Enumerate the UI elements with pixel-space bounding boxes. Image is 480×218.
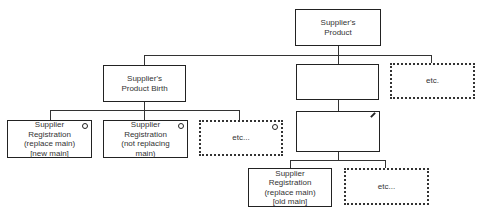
node-blank-middle[interactable] (296, 64, 379, 100)
node-label: Supplier Registration (replace main) [ne… (24, 120, 75, 158)
diagram-canvas: Supplier's Product Supplier's Product Bi… (0, 0, 480, 218)
node-label: etc. (426, 76, 439, 86)
node-supplier-registration-old-main[interactable]: Supplier Registration (replace main) [ol… (248, 168, 332, 207)
circle-icon (82, 123, 88, 129)
node-label: etc... (378, 182, 395, 192)
connector (144, 55, 432, 56)
circle-icon (178, 123, 184, 129)
connector (50, 110, 240, 111)
node-etc-left[interactable]: etc... (199, 120, 283, 156)
connector (50, 110, 51, 120)
node-suppliers-product[interactable]: Supplier's Product (295, 9, 381, 46)
node-suppliers-product-birth[interactable]: Supplier's Product Birth (103, 65, 186, 102)
pencil-icon (370, 112, 376, 118)
connector (338, 152, 339, 160)
node-blank-edit[interactable] (296, 111, 380, 152)
connector (338, 46, 339, 55)
connector (144, 110, 145, 120)
node-label: etc... (232, 133, 249, 143)
node-label: Supplier Registration (replace main) [ol… (264, 169, 315, 207)
circle-icon (272, 124, 278, 130)
connector (144, 102, 145, 110)
connector (338, 99, 339, 111)
connector (385, 160, 386, 168)
node-label: Supplier Registration (not replacing mai… (121, 120, 169, 158)
node-label: Supplier's Product (321, 18, 356, 37)
node-supplier-registration-not-replacing[interactable]: Supplier Registration (not replacing mai… (103, 120, 188, 158)
node-label: Supplier's Product Birth (121, 74, 167, 93)
node-etc-bottom[interactable]: etc... (344, 168, 429, 205)
connector (239, 110, 240, 120)
connector (290, 160, 386, 161)
node-supplier-registration-new-main[interactable]: Supplier Registration (replace main) [ne… (7, 120, 92, 158)
connector (144, 55, 145, 65)
connector (290, 160, 291, 168)
node-etc-top[interactable]: etc. (390, 63, 475, 99)
